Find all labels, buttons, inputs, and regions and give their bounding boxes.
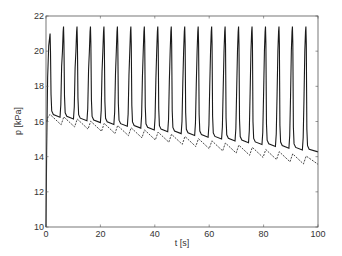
x-tick-label: 80: [259, 229, 269, 239]
y-tick-label: 22: [34, 11, 44, 21]
pressure-time-chart: 020406080100 10121416182022 t [s] p [kPa…: [0, 0, 342, 256]
y-tick-label: 20: [34, 46, 44, 56]
y-axis-label: p [kPa]: [13, 107, 23, 135]
y-tick-label: 16: [34, 117, 44, 127]
x-tick-label: 100: [310, 229, 325, 239]
y-tick-label: 10: [34, 222, 44, 232]
solid-series-line: [46, 27, 318, 227]
x-tick-label: 60: [204, 229, 214, 239]
x-axis-label: t [s]: [175, 238, 190, 248]
y-tick-label: 18: [34, 81, 44, 91]
x-tick-label: 0: [43, 229, 48, 239]
x-tick-label: 40: [150, 229, 160, 239]
y-tick-label: 12: [34, 187, 44, 197]
x-tick-label: 20: [95, 229, 105, 239]
y-tick-label: 14: [34, 152, 44, 162]
x-axis-ticks: 020406080100: [43, 16, 325, 239]
plot-area: [46, 27, 318, 227]
